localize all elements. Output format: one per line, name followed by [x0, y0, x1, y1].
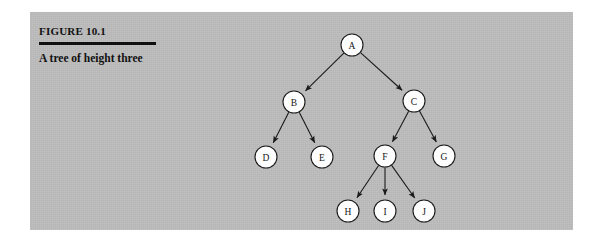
- node-label-d: D: [263, 153, 270, 163]
- tree-node-d: D: [255, 146, 277, 168]
- tree-edge-c-f: [392, 111, 408, 142]
- tree-edge-a-b: [305, 53, 343, 91]
- tree-edge-b-e: [299, 112, 315, 142]
- tree-node-g: G: [433, 145, 455, 167]
- node-label-c: C: [411, 97, 417, 107]
- tree-node-f: F: [374, 145, 396, 167]
- tree-node-b: B: [283, 91, 305, 113]
- node-label-a: A: [349, 41, 356, 51]
- node-label-i: I: [383, 207, 386, 217]
- tree-node-c: C: [403, 90, 425, 112]
- tree-edge-a-c: [361, 53, 403, 91]
- tree-edge-b-d: [273, 112, 289, 142]
- tree-node-e: E: [311, 146, 333, 168]
- tree-node-j: J: [413, 200, 435, 222]
- tree-diagram: ABCDEFGHIJ: [30, 12, 573, 230]
- node-label-g: G: [441, 152, 448, 162]
- tree-edge-f-h: [357, 166, 379, 198]
- figure-page: FIGURE 10.1 A tree of height three ABCDE…: [0, 0, 596, 250]
- tree-edges: [273, 53, 436, 198]
- tree-node-i: I: [374, 200, 396, 222]
- tree-edge-c-g: [420, 111, 437, 142]
- tree-node-a: A: [341, 34, 363, 56]
- node-label-h: H: [345, 207, 352, 217]
- tree-nodes: ABCDEFGHIJ: [255, 34, 455, 222]
- node-label-e: E: [319, 153, 325, 163]
- tree-node-h: H: [337, 200, 359, 222]
- node-label-b: B: [291, 98, 297, 108]
- figure-panel: FIGURE 10.1 A tree of height three ABCDE…: [30, 12, 573, 230]
- node-label-f: F: [382, 152, 387, 162]
- node-label-j: J: [422, 207, 426, 217]
- tree-edge-f-j: [392, 165, 415, 198]
